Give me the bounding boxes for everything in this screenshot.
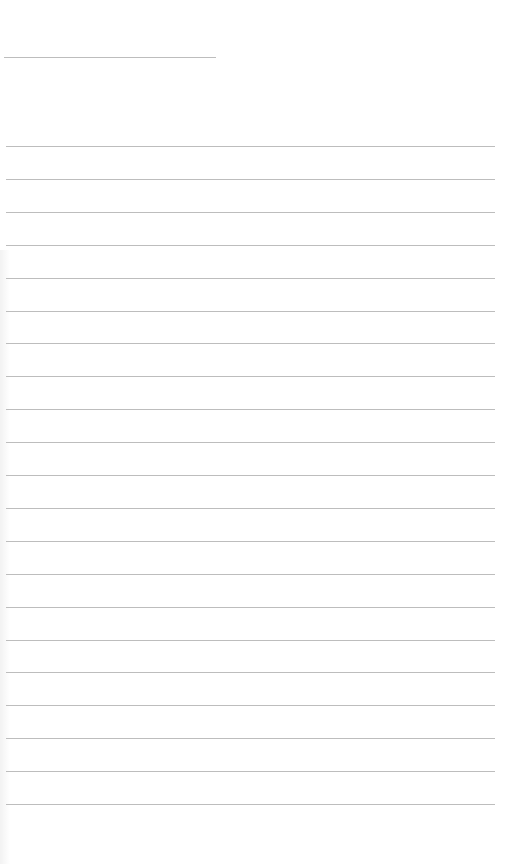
ruled-line [6,343,495,344]
ruled-line [6,607,495,608]
ruled-line [6,508,495,509]
ruled-line [6,475,495,476]
ruled-line [6,804,495,805]
header-rule [4,57,216,58]
ruled-line [6,771,495,772]
ruled-line [6,376,495,377]
ruled-line [6,442,495,443]
ruled-line [6,278,495,279]
ruled-line [6,738,495,739]
ruled-line [6,146,495,147]
ruled-line [6,311,495,312]
ruled-line [6,640,495,641]
ruled-line [6,409,495,410]
ruled-line [6,179,495,180]
ruled-line [6,705,495,706]
ruled-line [6,672,495,673]
ruled-line [6,245,495,246]
ruled-line [6,541,495,542]
ruled-line [6,212,495,213]
ruled-line [6,574,495,575]
